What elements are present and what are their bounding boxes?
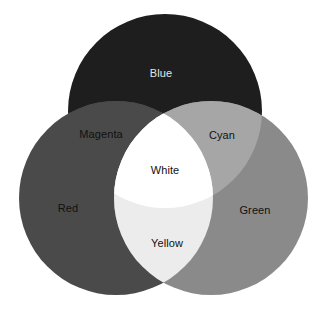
label-blue: Blue [150,67,172,79]
label-red: Red [58,202,78,214]
label-cyan: Cyan [209,129,235,141]
label-yellow: Yellow [151,237,183,249]
label-magenta: Magenta [79,128,123,140]
label-white: White [151,164,180,176]
label-green: Green [239,204,270,216]
venn-diagram [0,0,322,310]
